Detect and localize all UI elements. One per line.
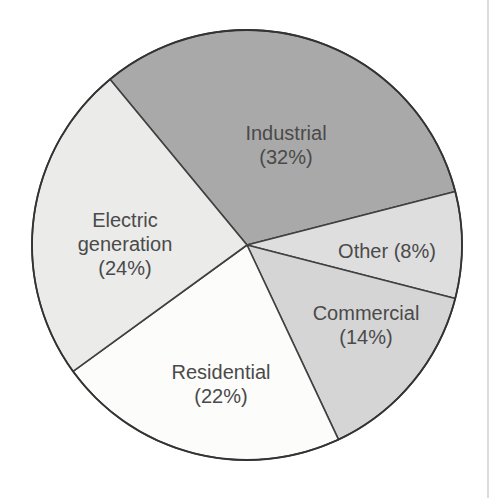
pie-chart-figure: Industrial(32%)Other (8%)Commercial(14%)… bbox=[0, 0, 500, 498]
slice-label-electric-generation-line-3: (24%) bbox=[98, 257, 151, 279]
slice-label-industrial-line-2: (32%) bbox=[259, 146, 312, 168]
slice-label-commercial-line-1: Commercial bbox=[313, 302, 420, 324]
slice-label-residential-line-1: Residential bbox=[172, 361, 271, 383]
slice-label-electric-generation-line-1: Electric bbox=[92, 209, 158, 231]
slice-label-other-line-1: Other (8%) bbox=[338, 240, 436, 262]
slice-label-electric-generation-line-2: generation bbox=[78, 233, 173, 255]
pie-chart: Industrial(32%)Other (8%)Commercial(14%)… bbox=[0, 0, 500, 498]
slice-label-industrial-line-1: Industrial bbox=[245, 122, 326, 144]
slice-label-residential-line-2: (22%) bbox=[194, 385, 247, 407]
slice-label-commercial-line-2: (14%) bbox=[339, 326, 392, 348]
